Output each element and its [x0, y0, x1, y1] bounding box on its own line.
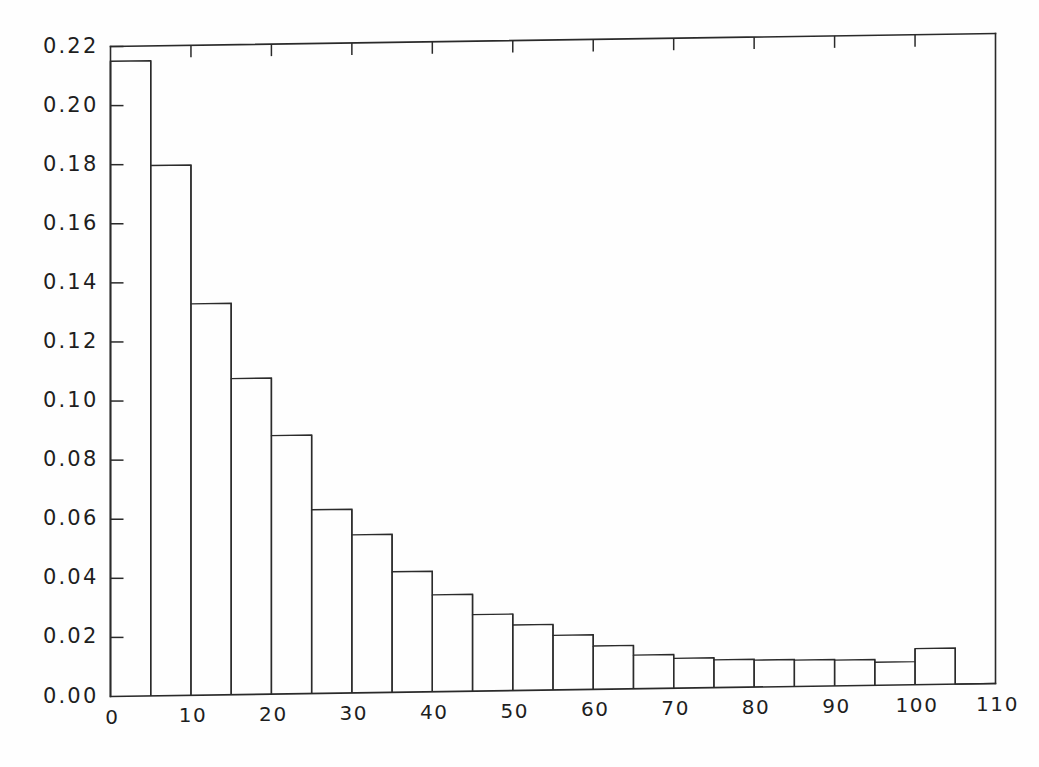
x-tick-label: 0 [105, 705, 119, 729]
x-tick-label: 50 [500, 699, 529, 723]
x-tick-label: 20 [259, 702, 288, 726]
histogram-plot: 0.000.020.040.060.080.100.120.140.160.18… [0, 0, 1039, 767]
y-tick-label: 0.06 [43, 506, 99, 530]
x-tick-label: 30 [340, 701, 369, 725]
x-tick-label: 90 [822, 694, 851, 718]
top-axis-line [111, 34, 996, 47]
y-tick-label: 0.20 [43, 93, 99, 117]
x-tick-label: 10 [179, 703, 208, 727]
y-tick-label: 0.12 [43, 329, 99, 353]
histogram-outline [111, 61, 996, 697]
histogram-figure: 0.000.020.040.060.080.100.120.140.160.18… [0, 0, 1039, 767]
y-tick-label: 0.04 [43, 565, 99, 589]
x-tick-label: 80 [742, 695, 771, 719]
y-tick-label: 0.00 [43, 684, 99, 708]
x-tick-label: 100 [896, 693, 939, 717]
y-tick-label: 0.02 [43, 624, 99, 648]
y-tick-label: 0.10 [43, 388, 99, 412]
y-tick-label: 0.18 [43, 152, 99, 176]
x-tick-label: 40 [420, 700, 449, 724]
x-tick-label: 110 [976, 692, 1019, 716]
y-tick-label: 0.16 [43, 211, 99, 235]
y-tick-label: 0.14 [43, 270, 99, 294]
x-tick-label: 60 [581, 697, 610, 721]
x-tick-label: 70 [661, 696, 690, 720]
y-tick-label: 0.08 [43, 447, 99, 471]
y-tick-label: 0.22 [43, 34, 99, 58]
